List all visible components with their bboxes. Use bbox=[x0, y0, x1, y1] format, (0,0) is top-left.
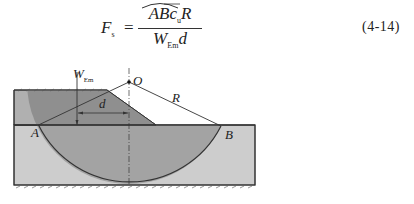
label-weight: WEm bbox=[73, 66, 94, 84]
diagram-canvas bbox=[0, 60, 414, 204]
label-point-b: B bbox=[225, 127, 233, 143]
equation-number: (4-14) bbox=[362, 19, 400, 35]
numerator: ABcuR bbox=[138, 4, 202, 25]
fraction: ABcuR WEmd bbox=[138, 4, 202, 48]
label-lever-arm-d: d bbox=[99, 96, 106, 112]
equation-block: Fs = ABcuR WEmd (4-14) bbox=[0, 0, 414, 52]
equals-sign: = bbox=[124, 18, 134, 38]
label-point-a: A bbox=[31, 125, 39, 141]
denominator: WEmd bbox=[138, 29, 202, 50]
equation-lhs: Fs bbox=[101, 18, 115, 39]
ground-hatch-bottom bbox=[16, 186, 252, 188]
center-point bbox=[127, 80, 131, 84]
slope-stability-diagram: WEm O R d A B bbox=[0, 60, 414, 204]
label-center-o: O bbox=[133, 73, 142, 89]
label-radius-r: R bbox=[172, 90, 180, 106]
